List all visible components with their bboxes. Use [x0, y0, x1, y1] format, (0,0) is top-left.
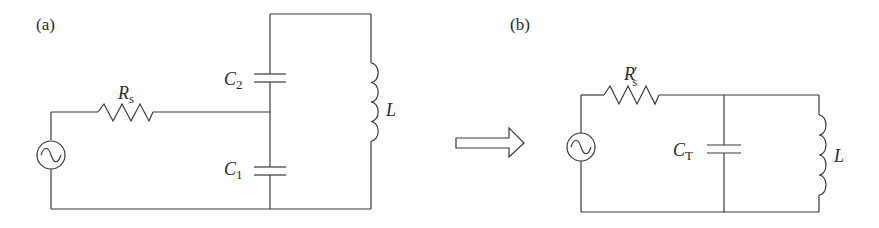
right-arrow-icon [456, 128, 524, 157]
capacitor-c2-label: C2 [224, 69, 243, 92]
circuit-figure: (a) Rs C2 [0, 0, 879, 228]
inductor-label: L [833, 146, 844, 166]
inductor-icon [371, 63, 378, 141]
panel-a: (a) Rs C2 [36, 14, 396, 209]
ac-source-icon [37, 112, 65, 209]
capacitor-c1-label: C1 [224, 159, 243, 182]
capacitor-ct-label: CT [673, 140, 693, 163]
panel-b-label: (b) [510, 15, 530, 34]
capacitor-c2-icon [254, 74, 286, 82]
ac-source-icon [567, 95, 595, 212]
panel-b: (b) R′s CT [510, 15, 844, 212]
inductor-icon [819, 115, 826, 195]
resistor-label: Rs [117, 83, 134, 106]
panel-a-label: (a) [36, 15, 55, 34]
resistor-icon [98, 104, 153, 121]
inductor-label: L [385, 100, 396, 120]
capacitor-c1-icon [254, 167, 286, 175]
capacitor-ct-icon [707, 145, 741, 153]
resistor-label: R′s [623, 64, 637, 89]
